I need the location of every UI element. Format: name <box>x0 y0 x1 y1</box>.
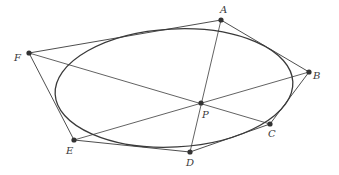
point-e <box>71 137 76 142</box>
point-p <box>198 100 203 105</box>
diagonal-cf <box>29 53 270 124</box>
point-f <box>26 50 31 55</box>
label-d: D <box>185 157 194 168</box>
label-b: B <box>312 70 320 81</box>
point-a <box>218 17 223 22</box>
diagonal-ad <box>190 20 221 152</box>
brianchon-diagram: ABCDEFP <box>0 0 339 175</box>
point-d <box>187 149 192 154</box>
label-a: A <box>219 4 227 15</box>
hexagon-edges <box>29 20 309 152</box>
label-e: E <box>65 145 74 156</box>
label-p: P <box>201 109 209 120</box>
point-c <box>267 121 272 126</box>
edge-de <box>74 140 190 152</box>
label-c: C <box>268 128 276 139</box>
label-f: F <box>13 52 22 63</box>
diagram-canvas: ABCDEFP <box>0 0 339 175</box>
diagonals <box>29 20 309 152</box>
point-b <box>306 69 311 74</box>
vertex-labels: ABCDEFP <box>13 4 320 168</box>
